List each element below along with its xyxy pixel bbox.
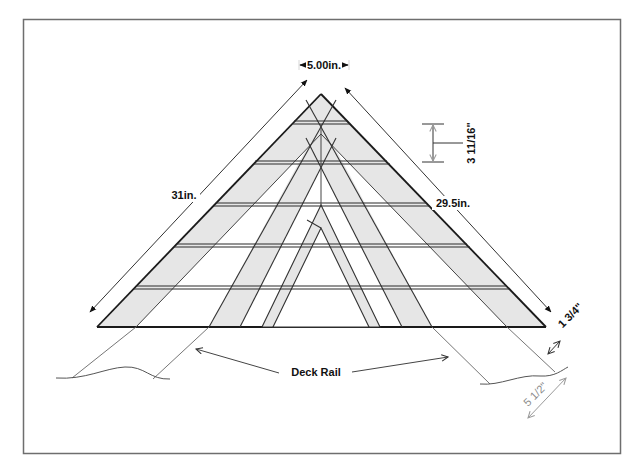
- label-top-width: 5.00in.: [307, 59, 341, 71]
- deck-rail-triangle-diagram: 5.00in. 31in. 29.5in. 3 11/16" 1 3/4" 5 …: [0, 0, 643, 471]
- dimension-top-width: 5.00in.: [299, 59, 349, 71]
- label-board-thickness: 1 3/4": [555, 300, 584, 329]
- label-deck-rail: Deck Rail: [291, 366, 341, 378]
- label-slat-spacing: 3 11/16": [465, 122, 477, 163]
- dimension-board-thickness: 1 3/4": [548, 300, 585, 354]
- label-rail-width: 5 1/2": [521, 380, 550, 409]
- deck-rail-callout: Deck Rail: [196, 349, 448, 378]
- label-left-side: 31in.: [171, 189, 196, 201]
- dimension-rail-width: 5 1/2": [521, 378, 566, 418]
- label-right-side: 29.5in.: [436, 197, 470, 209]
- dimension-right-side: 29.5in.: [345, 88, 551, 312]
- dimension-slat-spacing: 3 11/16": [422, 122, 477, 163]
- dimension-left-side: 31in.: [90, 80, 307, 312]
